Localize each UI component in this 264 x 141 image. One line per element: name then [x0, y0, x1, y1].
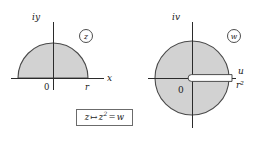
left-imaginary-axis-label: iy — [32, 12, 41, 22]
maps-to-symbol: ↦ — [89, 112, 98, 122]
equals-symbol: = — [107, 112, 116, 122]
z-badge-label: z — [83, 32, 88, 41]
w-badge-label: w — [231, 32, 238, 41]
left-panel-z-plane: iy x 0 r z — [11, 12, 112, 92]
left-real-axis-label: x — [107, 73, 112, 83]
right-imaginary-axis-label: iv — [172, 12, 180, 22]
left-radius-label: r — [85, 82, 90, 92]
z-plane-badge: z — [80, 30, 93, 43]
right-radius-label: r² — [236, 80, 244, 90]
right-panel-w-plane: iv u 0 r² w — [148, 12, 244, 128]
right-real-axis-label: u — [238, 66, 244, 76]
right-origin-label: 0 — [178, 85, 184, 95]
slit-cut — [188, 75, 232, 82]
left-origin-label: 0 — [44, 82, 49, 92]
w-plane-badge: w — [228, 30, 241, 43]
formula-box: z↦z2=w — [76, 109, 133, 126]
formula-output-variable: w — [117, 112, 124, 122]
formula-expression: z↦z2=w — [85, 113, 125, 122]
figure-root: iy x 0 r z iv u 0 r² — [0, 0, 264, 141]
